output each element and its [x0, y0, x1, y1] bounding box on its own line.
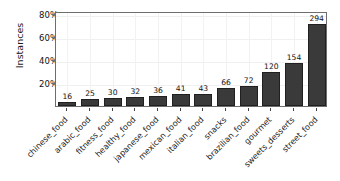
x-tick-mark	[270, 108, 271, 111]
bar-value-label: 32	[130, 88, 140, 96]
bar-item[interactable]: 154	[285, 13, 303, 106]
bar-item[interactable]: 30	[104, 13, 122, 106]
bar-value-label: 30	[108, 89, 118, 97]
bar-item[interactable]: 16	[58, 13, 76, 106]
bar-rect[interactable]	[81, 99, 99, 106]
bar-item[interactable]: 32	[126, 13, 144, 106]
bar-rect[interactable]	[240, 86, 258, 106]
bar-value-label: 294	[309, 15, 324, 23]
bar-rect[interactable]	[194, 94, 212, 106]
x-tick-mark	[316, 108, 317, 111]
bar-item[interactable]: 36	[149, 13, 167, 106]
bar-rect[interactable]	[149, 96, 167, 106]
bar-value-label: 72	[244, 77, 254, 85]
x-tick-mark	[180, 108, 181, 111]
bar-item[interactable]: 120	[262, 13, 280, 106]
bar-rect[interactable]	[104, 98, 122, 106]
bar-rect[interactable]	[126, 97, 144, 106]
bar-item[interactable]: 294	[308, 13, 326, 106]
bar-value-label: 25	[85, 90, 95, 98]
x-tick-mark	[89, 108, 90, 111]
bar-rect[interactable]	[217, 88, 235, 106]
bar-value-label: 16	[62, 93, 72, 101]
x-tick-mark	[134, 108, 135, 111]
x-tick-mark	[225, 108, 226, 111]
bar-value-label: 66	[221, 79, 231, 87]
bar-item[interactable]: 25	[81, 13, 99, 106]
bar-value-label: 41	[176, 85, 186, 93]
x-tick-mark	[112, 108, 113, 111]
x-tick-mark	[293, 108, 294, 111]
bar-item[interactable]: 43	[194, 13, 212, 106]
bar-rect[interactable]	[285, 63, 303, 106]
bar-value-label: 120	[264, 63, 279, 71]
bar-rect[interactable]	[172, 94, 190, 106]
bar-chart-figure: Instances 20%40%60%80% 16253032364143667…	[0, 0, 340, 181]
x-tick-mark	[157, 108, 158, 111]
bar-series: 162530323641436672120154294	[56, 13, 326, 106]
x-tick-mark	[202, 108, 203, 111]
bar-rect[interactable]	[58, 102, 76, 106]
bar-value-label: 154	[287, 54, 302, 62]
bar-value-label: 43	[198, 85, 208, 93]
bar-item[interactable]: 72	[240, 13, 258, 106]
bar-rect[interactable]	[262, 72, 280, 106]
x-tick-mark	[248, 108, 249, 111]
bar-item[interactable]: 41	[172, 13, 190, 106]
x-tick-mark	[66, 108, 67, 111]
bar-item[interactable]: 66	[217, 13, 235, 106]
plot-area: 162530323641436672120154294	[55, 12, 327, 107]
bar-rect[interactable]	[308, 24, 326, 106]
bar-value-label: 36	[153, 87, 163, 95]
